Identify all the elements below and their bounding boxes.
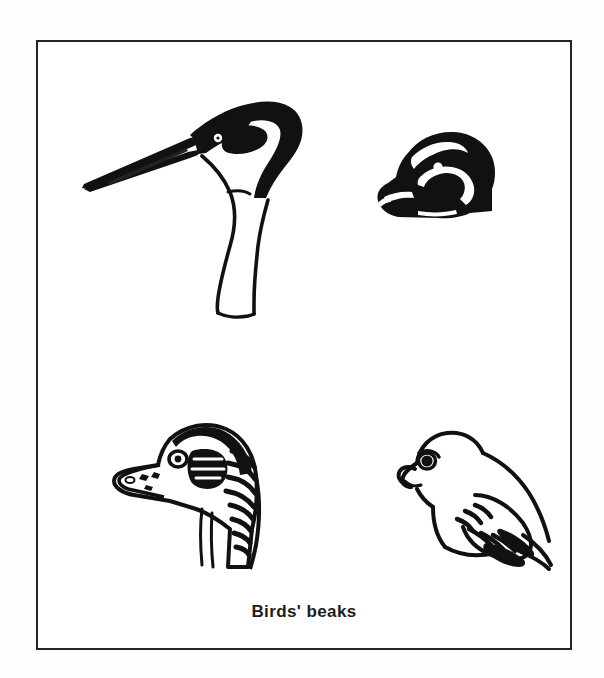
figure-perching-bird bbox=[383, 425, 553, 573]
page-canvas: Birds' beaks bbox=[0, 0, 604, 678]
figure-heron bbox=[78, 80, 318, 320]
figure-goose-head bbox=[108, 417, 283, 572]
heron-drawing bbox=[82, 102, 303, 198]
dark-duck-drawing bbox=[377, 132, 495, 218]
plate-caption: Birds' beaks bbox=[38, 602, 570, 622]
heron-neck bbox=[202, 156, 268, 317]
figure-dark-duck bbox=[374, 127, 499, 227]
illustration-plate: Birds' beaks bbox=[36, 40, 572, 650]
goose-head-drawing bbox=[114, 425, 259, 569]
